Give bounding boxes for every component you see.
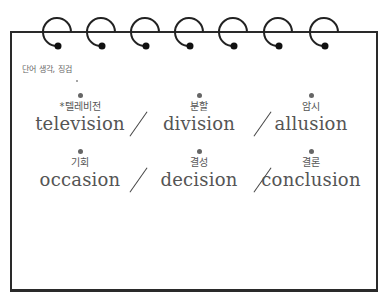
bullet-icon (197, 93, 202, 98)
bullet-icon (309, 149, 314, 154)
english-word: division (139, 113, 259, 135)
english-word: conclusion (251, 169, 371, 191)
korean-word: 분할 (139, 101, 259, 113)
korean-word: 기회 (20, 157, 140, 169)
marker-dot (76, 80, 78, 82)
word-card: 결론 conclusion (251, 149, 371, 191)
korean-word: 결성 (139, 157, 259, 169)
english-word: allusion (251, 113, 371, 135)
bullet-icon (197, 149, 202, 154)
english-word: television (20, 113, 140, 135)
english-word: occasion (20, 169, 140, 191)
word-card: *텔레비전 television (20, 93, 140, 135)
word-card: 기회 occasion (20, 149, 140, 191)
word-card: 암시 allusion (251, 93, 371, 135)
korean-word: 암시 (251, 101, 371, 113)
bullet-icon (78, 149, 83, 154)
bullet-icon (78, 93, 83, 98)
english-word: decision (139, 169, 259, 191)
word-card: 결성 decision (139, 149, 259, 191)
korean-word: 결론 (251, 157, 371, 169)
bullet-icon (309, 93, 314, 98)
topic-label: 단어 생각, 징검 (22, 63, 72, 74)
word-card: 분할 division (139, 93, 259, 135)
korean-word: *텔레비전 (20, 101, 140, 113)
